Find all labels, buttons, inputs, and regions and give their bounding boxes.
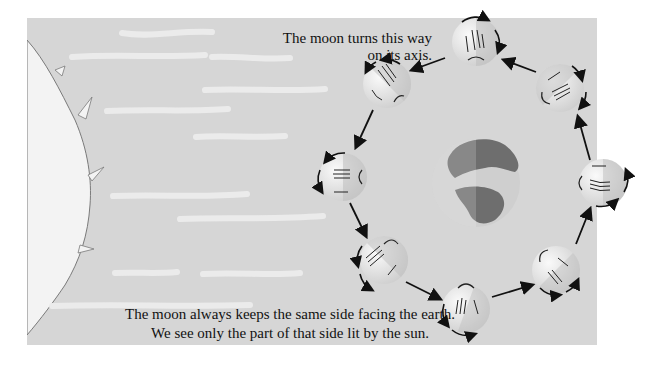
- explanation-caption: The moon always keeps the same side faci…: [60, 305, 520, 343]
- rotation-caption-line1: The moon turns this way: [262, 30, 432, 47]
- earth: [432, 139, 520, 227]
- explanation-caption-line1: The moon always keeps the same side faci…: [60, 305, 520, 324]
- rotation-caption: The moon turns this way on its axis.: [262, 30, 432, 64]
- sun-rays: [52, 32, 325, 306]
- moon-left: [318, 153, 367, 201]
- sun: [27, 40, 104, 335]
- explanation-caption-line2: We see only the part of that side lit by…: [60, 324, 520, 343]
- moon-right: [579, 159, 628, 207]
- moon-top-right: [536, 64, 586, 112]
- moon-bottom-right: [532, 246, 580, 295]
- moon-top-left: [363, 60, 411, 108]
- rotation-caption-line2: on its axis.: [262, 47, 432, 64]
- moon-bottom-left: [357, 236, 408, 290]
- moon-top: [452, 17, 500, 66]
